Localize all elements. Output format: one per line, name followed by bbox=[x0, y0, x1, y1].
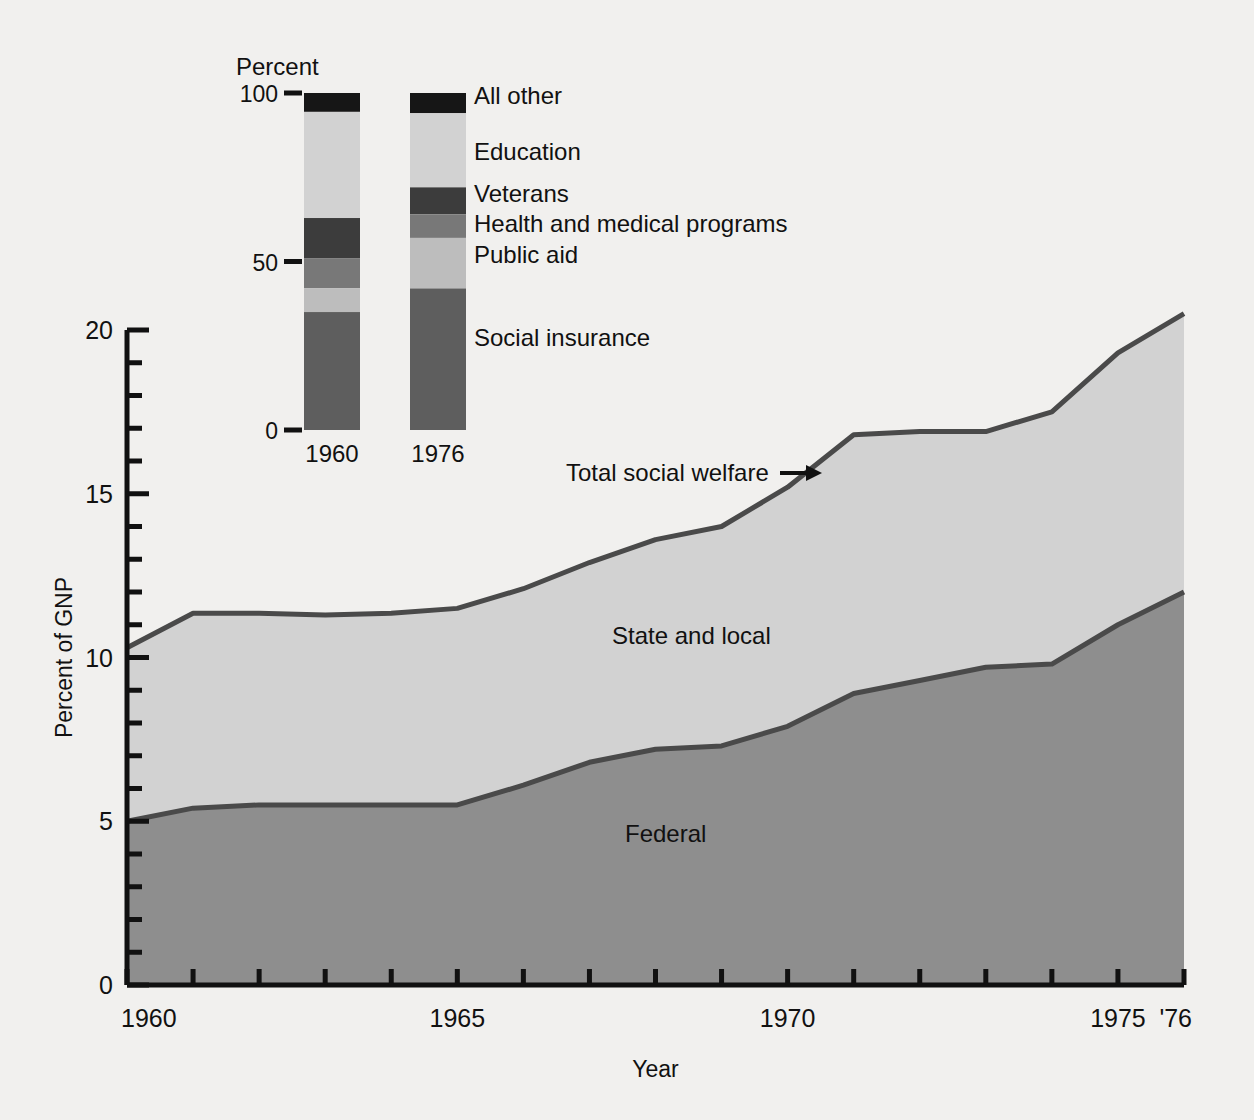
inset-category-label: All other bbox=[474, 82, 562, 109]
x-tick-label: 1970 bbox=[760, 1004, 816, 1032]
inset-segment-health-and-medical-programs bbox=[304, 258, 360, 288]
inset-title: Percent bbox=[236, 53, 319, 80]
inset-category-label: Social insurance bbox=[474, 324, 650, 351]
x-tick-label: 1975 bbox=[1090, 1004, 1146, 1032]
inset-category-label: Veterans bbox=[474, 180, 569, 207]
area-label-state-and-local: State and local bbox=[612, 622, 771, 649]
inset-category-label: Public aid bbox=[474, 241, 578, 268]
inset-bar-label-1960: 1960 bbox=[305, 440, 358, 467]
y-tick-label: 5 bbox=[99, 807, 113, 835]
y-tick-label: 0 bbox=[99, 971, 113, 999]
x-tick-label: 1960 bbox=[121, 1004, 177, 1032]
inset-tick-label: 100 bbox=[240, 81, 278, 107]
x-tick-label: '76 bbox=[1159, 1004, 1192, 1032]
inset-segment-health-and-medical-programs bbox=[410, 214, 466, 238]
inset-category-label: Education bbox=[474, 138, 581, 165]
inset-segment-all-other bbox=[304, 93, 360, 112]
inset-category-label: Health and medical programs bbox=[474, 210, 788, 237]
inset-segment-social-insurance bbox=[304, 312, 360, 430]
area-label-federal: Federal bbox=[625, 820, 706, 847]
inset-segment-veterans bbox=[410, 187, 466, 214]
inset-segment-social-insurance bbox=[410, 288, 466, 430]
y-axis-title: Percent of GNP bbox=[51, 577, 77, 738]
inset-segment-education bbox=[410, 113, 466, 187]
y-tick-label: 10 bbox=[85, 644, 113, 672]
y-tick-label: 15 bbox=[85, 480, 113, 508]
social-welfare-area-chart: 05101520Percent of GNP1960196519701975'7… bbox=[0, 0, 1254, 1120]
inset-segment-education bbox=[304, 112, 360, 218]
x-axis-title: Year bbox=[632, 1056, 679, 1082]
inset-segment-public-aid bbox=[410, 238, 466, 289]
inset-segment-public-aid bbox=[304, 288, 360, 312]
chart-canvas: 05101520Percent of GNP1960196519701975'7… bbox=[0, 0, 1254, 1120]
y-tick-label: 20 bbox=[85, 316, 113, 344]
inset-tick-label: 50 bbox=[252, 250, 278, 276]
inset-segment-veterans bbox=[304, 218, 360, 258]
annotation-total-social-welfare: Total social welfare bbox=[566, 459, 769, 486]
inset-segment-all-other bbox=[410, 93, 466, 113]
x-tick-label: 1965 bbox=[430, 1004, 486, 1032]
inset-tick-label: 0 bbox=[265, 418, 278, 444]
inset-bar-label-1976: 1976 bbox=[411, 440, 464, 467]
